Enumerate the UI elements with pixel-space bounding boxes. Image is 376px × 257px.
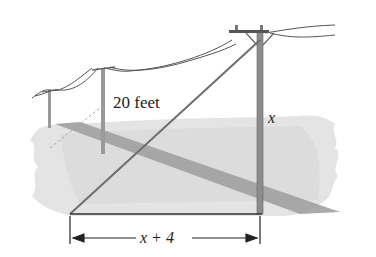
power-wires xyxy=(32,25,335,98)
vertical-side-label: x xyxy=(267,109,275,126)
power-pole-diagram: 20 feet x x + 4 xyxy=(0,0,376,257)
horizontal-side-label: x + 4 xyxy=(139,229,174,246)
far-pole xyxy=(42,90,58,128)
hypotenuse-label: 20 feet xyxy=(113,93,160,112)
